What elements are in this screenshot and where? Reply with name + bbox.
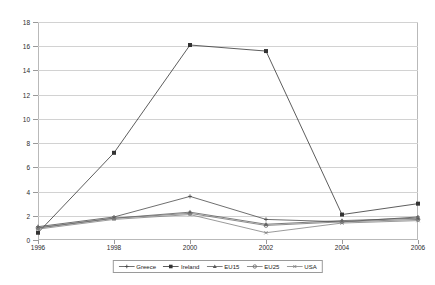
- data-point-square: [169, 265, 173, 269]
- data-point-square: [264, 49, 268, 53]
- y-tick-label: 16: [0, 43, 30, 50]
- x-tick-label: 1998: [107, 244, 121, 251]
- legend: GreeceIrelandEU15EU25USA: [112, 260, 322, 273]
- y-tick-label: 8: [0, 140, 30, 147]
- x-tick-label: 2000: [183, 244, 197, 251]
- legend-item-ireland[interactable]: Ireland: [163, 263, 199, 270]
- y-tick-label: 14: [0, 67, 30, 74]
- y-tick-label: 10: [0, 115, 30, 122]
- legend-swatch-triangle: [206, 263, 222, 270]
- legend-label: Ireland: [181, 264, 199, 270]
- series-line: [38, 212, 418, 228]
- data-point-square: [188, 43, 192, 47]
- series-line: [38, 45, 418, 233]
- x-tick-label: 1996: [31, 244, 45, 251]
- legend-label: EU15: [224, 264, 239, 270]
- series-line: [38, 215, 418, 233]
- legend-item-eu25[interactable]: EU25: [246, 263, 279, 270]
- legend-label: Greece: [136, 264, 156, 270]
- legend-swatch-circle: [246, 263, 262, 270]
- series-usa: [36, 213, 419, 234]
- x-tick-label: 2002: [259, 244, 273, 251]
- legend-swatch-x: [286, 263, 302, 270]
- legend-item-usa[interactable]: USA: [286, 263, 316, 270]
- series-ireland: [36, 43, 420, 235]
- line-chart: 024681012141618 199619982000200220042006…: [0, 0, 435, 285]
- legend-swatch-square: [163, 263, 179, 270]
- y-tick-label: 6: [0, 164, 30, 171]
- data-point-cross: [188, 194, 192, 198]
- x-tick-label: 2004: [335, 244, 349, 251]
- data-point-cross: [264, 217, 268, 221]
- legend-swatch-cross: [118, 263, 134, 270]
- data-point-square: [416, 202, 420, 206]
- data-series-layer: [38, 22, 418, 240]
- y-tick-label: 12: [0, 91, 30, 98]
- y-tick-label: 18: [0, 19, 30, 26]
- data-point-square: [36, 231, 40, 235]
- y-tick-label: 0: [0, 237, 30, 244]
- x-tick-label: 2006: [411, 244, 425, 251]
- legend-item-eu15[interactable]: EU15: [206, 263, 239, 270]
- y-tick-label: 2: [0, 212, 30, 219]
- data-point-square: [340, 213, 344, 217]
- data-point-cross: [124, 265, 128, 269]
- legend-label: EU25: [264, 264, 279, 270]
- y-tick-label: 4: [0, 188, 30, 195]
- data-point-square: [112, 151, 116, 155]
- legend-item-greece[interactable]: Greece: [118, 263, 156, 270]
- legend-label: USA: [304, 264, 316, 270]
